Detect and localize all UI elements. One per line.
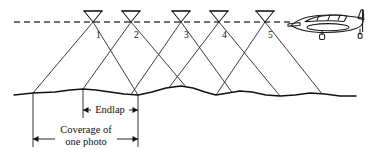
aerial-endlap-diagram: 12345 Endlap Coverage of one photo (0, 0, 370, 157)
station-number-3: 3 (184, 30, 189, 40)
camera-symbol-station-4 (209, 11, 229, 22)
diagram-canvas: 12345 Endlap Coverage of one photo (0, 0, 370, 157)
ray-cone-group (33, 22, 322, 96)
station-number-1: 1 (96, 30, 101, 40)
station-number-5: 5 (268, 30, 273, 40)
ray-right-station-5 (265, 22, 322, 94)
coverage-label-line-1: Coverage of (60, 124, 112, 135)
endlap-dimension: Endlap (83, 104, 138, 115)
ray-left-station-1 (33, 22, 93, 93)
camera-cone-icon (172, 11, 190, 22)
camera-cone-icon (84, 11, 102, 22)
airplane-window-divider-3 (338, 15, 340, 20)
airplane (288, 10, 364, 40)
ray-left-station-4 (169, 22, 219, 88)
camera-symbol-station-1 (83, 11, 103, 22)
airplane-horizontal-stabilizer (288, 23, 300, 27)
station-number-2: 2 (134, 30, 139, 40)
camera-cone-icon (122, 11, 140, 22)
camera-symbol-station-2 (121, 11, 141, 22)
camera-symbol-station-5 (255, 11, 275, 22)
coverage-dimension: Coverage of one photo (33, 124, 138, 147)
station-number-group: 12345 (96, 30, 273, 40)
ground-profile (14, 86, 356, 96)
camera-symbol-group (83, 11, 275, 22)
airplane-window-divider-2 (328, 15, 330, 20)
camera-symbol-station-3 (171, 11, 191, 22)
airplane-wing (307, 24, 349, 31)
camera-cone-icon (256, 11, 274, 22)
ray-left-station-2 (83, 22, 131, 89)
coverage-label-line-2: one photo (65, 136, 107, 147)
camera-cone-icon (210, 11, 228, 22)
endlap-label: Endlap (95, 104, 125, 115)
station-number-4: 4 (222, 30, 227, 40)
